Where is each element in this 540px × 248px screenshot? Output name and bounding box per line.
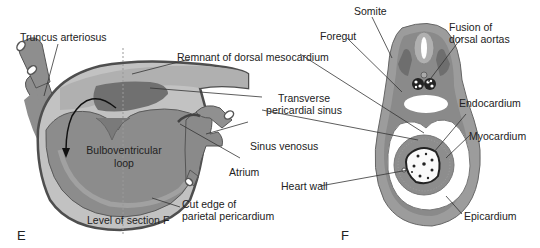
label-bulboventricular-loop-line2: loop: [64, 157, 184, 169]
label-transverse-pericardial-sinus-line2: pericardial sinus: [248, 104, 360, 116]
label-foregut: Foregut: [320, 30, 356, 42]
label-endocardium: Endocardium: [459, 97, 521, 109]
foregut: [404, 95, 448, 113]
label-heart-wall: Heart wall: [281, 180, 328, 192]
label-epicardium: Epicardium: [464, 210, 517, 222]
panel-letter-e: E: [17, 228, 26, 243]
endocardium-lumen: [406, 148, 440, 183]
label-level-of-section: Level of section F: [87, 214, 169, 226]
panel-letter-f: F: [341, 228, 349, 243]
label-myocardium: Myocardium: [469, 130, 526, 142]
label-sinus-venosus: Sinus venosus: [250, 140, 318, 152]
panel-f-illustration: [262, 17, 480, 226]
label-somite: Somite: [354, 5, 387, 17]
embryonic-heart-figure: Truncus arteriosus Remnant of dorsal mes…: [0, 0, 540, 248]
label-bulboventricular-loop-line1: Bulboventricular: [64, 144, 184, 156]
label-cut-edge-line1: Cut edge of: [182, 198, 236, 210]
label-atrium: Atrium: [229, 166, 259, 178]
label-cut-edge-line2: parietal pericardium: [182, 210, 274, 222]
label-remnant-dorsal-mesocardium: Remnant of dorsal mesocardium: [177, 51, 329, 63]
label-fusion-line2: dorsal aortas: [449, 33, 510, 45]
label-fusion-line1: Fusion of: [449, 21, 492, 33]
label-truncus-arteriosus: Truncus arteriosus: [20, 31, 107, 43]
label-transverse-pericardial-sinus-line1: Transverse: [258, 92, 350, 104]
